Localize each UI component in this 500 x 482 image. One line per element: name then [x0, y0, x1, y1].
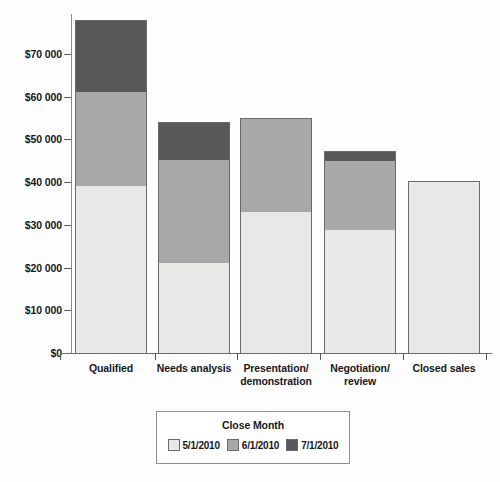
bar-segment[interactable] [158, 262, 230, 354]
legend-label: 7/1/2010 [301, 440, 338, 451]
bar-segment[interactable] [75, 20, 147, 92]
legend-label: 6/1/2010 [242, 440, 279, 451]
x-axis-category-label: Presentation/demonstration [232, 362, 320, 387]
bar-segment[interactable] [158, 122, 230, 160]
bar-segment[interactable] [75, 91, 147, 186]
y-axis-tick-label: $60 000 [4, 91, 62, 103]
legend-item[interactable]: 6/1/2010 [227, 439, 279, 451]
x-axis-tick [486, 353, 487, 360]
y-axis-tick-label: $40 000 [4, 176, 62, 188]
legend-swatch-icon [168, 439, 180, 451]
legend-item[interactable]: 7/1/2010 [286, 439, 338, 451]
x-axis-category-label: Negotiation/review [316, 362, 404, 387]
x-axis-category-label: Needs analysis [150, 362, 238, 375]
y-axis-tick-label: $50 000 [4, 133, 62, 145]
legend-title: Close Month [157, 419, 349, 431]
x-axis-tick [237, 353, 238, 360]
x-axis-tick [403, 353, 404, 360]
legend: Close Month 5/1/20106/1/20107/1/2010 [156, 411, 350, 464]
x-axis-tick [60, 353, 61, 360]
y-axis-tick-label: $20 000 [4, 262, 62, 274]
bar-segment[interactable] [240, 211, 312, 354]
y-axis-tick-label: $30 000 [4, 219, 62, 231]
x-axis-category-label: Closed sales [400, 362, 488, 375]
bar-segment[interactable] [240, 118, 312, 212]
stacked-bar-chart: $0$10 000$20 000$30 000$40 000$50 000$60… [0, 0, 500, 482]
category-label-line: Closed sales [400, 362, 488, 375]
y-axis-tick-label: $10 000 [4, 304, 62, 316]
category-label-line: review [316, 375, 404, 388]
bar-segment[interactable] [324, 160, 396, 230]
legend-label: 5/1/2010 [183, 440, 220, 451]
legend-items: 5/1/20106/1/20107/1/2010 [157, 439, 349, 451]
bar-segment[interactable] [324, 229, 396, 354]
x-axis-tick [320, 353, 321, 360]
category-label-line: Needs analysis [150, 362, 238, 375]
bar-segment[interactable] [408, 181, 480, 354]
bar-segment[interactable] [324, 151, 396, 161]
y-axis-tick-label: $0 [4, 347, 62, 359]
category-label-line: Qualified [67, 362, 155, 375]
bar-group[interactable] [408, 11, 480, 354]
plot-area [72, 10, 490, 354]
legend-item[interactable]: 5/1/2010 [168, 439, 220, 451]
x-axis-category-label: Qualified [67, 362, 155, 375]
category-label-line: Negotiation/ [316, 362, 404, 375]
x-axis-tick [155, 353, 156, 360]
bar-group[interactable] [158, 11, 230, 354]
bar-group[interactable] [240, 11, 312, 354]
bar-segment[interactable] [158, 159, 230, 263]
category-label-line: demonstration [232, 375, 320, 388]
legend-swatch-icon [286, 439, 298, 451]
category-label-line: Presentation/ [232, 362, 320, 375]
bar-group[interactable] [75, 11, 147, 354]
legend-swatch-icon [227, 439, 239, 451]
bar-group[interactable] [324, 11, 396, 354]
y-axis-tick-label: $70 000 [4, 48, 62, 60]
bar-segment[interactable] [75, 185, 147, 354]
